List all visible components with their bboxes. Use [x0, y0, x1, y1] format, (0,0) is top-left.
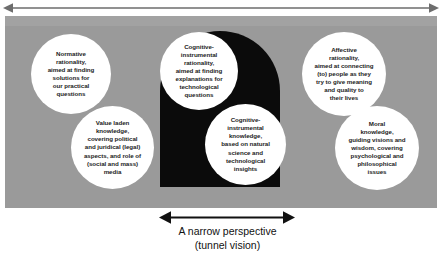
- diagram-canvas: Normative rationality, aimed at finding …: [0, 0, 442, 258]
- panel-top-sheen: [5, 16, 437, 26]
- narrow-double-arrow-icon: [158, 210, 296, 225]
- circle-affective-rationality[interactable]: Affective rationality, aimed at connecti…: [302, 32, 386, 116]
- caption-line-2: (tunnel vision): [120, 239, 335, 253]
- gray-background-panel: Normative rationality, aimed at finding …: [5, 16, 437, 208]
- full-width-double-arrow-icon: [2, 1, 440, 16]
- diagram-caption: A narrow perspective (tunnel vision): [120, 225, 335, 252]
- circle-label: Moral knowledge, guiding visions and wis…: [344, 120, 409, 177]
- circle-cognitive-instrumental-rationality[interactable]: Cognitive- instrumental rationality, aim…: [160, 32, 238, 110]
- circle-label: Cognitive- instrumental rationality, aim…: [172, 43, 227, 100]
- circle-label: Normative rationality, aimed at finding …: [44, 50, 99, 99]
- circle-label: Affective rationality, aimed at connecti…: [311, 46, 378, 103]
- circle-normative-rationality[interactable]: Normative rationality, aimed at finding …: [31, 34, 111, 114]
- circle-moral-knowledge[interactable]: Moral knowledge, guiding visions and wis…: [335, 106, 419, 190]
- circle-label: Cognitive- instrumental knowledge, based…: [217, 116, 274, 173]
- circle-label: Value laden knowledge, covering politica…: [80, 119, 145, 176]
- circle-value-laden-knowledge[interactable]: Value laden knowledge, covering politica…: [71, 106, 154, 189]
- circle-cognitive-instrumental-knowledge[interactable]: Cognitive- instrumental knowledge, based…: [205, 104, 286, 185]
- caption-line-1: A narrow perspective: [120, 225, 335, 239]
